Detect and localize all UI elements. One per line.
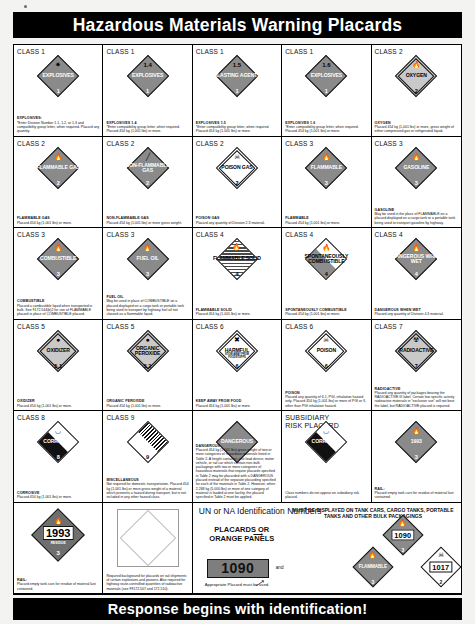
placard-name: FLAMMABLE [301, 165, 351, 170]
page-title: Hazardous Materials Warning Placards [13, 12, 462, 38]
placard-class-number: 3 [305, 180, 347, 186]
placard-cell-rail[interactable]: 🔥1993RESIDUE3RAIL:Placard empty tank car… [14, 503, 103, 595]
corrosion-icon: ◡ [323, 427, 329, 434]
placard-residue-text: RESIDUE [32, 541, 84, 545]
placard-note: CORROSIVEPlacard 454 kg (1,001 lbs) or m… [17, 491, 99, 500]
placard-cell[interactable]: CLASS 3🔥FLAMMABLE3FLAMMABLEPlacard 454 k… [282, 137, 371, 229]
placard-cell[interactable]: CLASS 8◡CORROSIVE8CORROSIVEPlacard 454 k… [14, 411, 103, 503]
placard-cell[interactable]: CLASS 3🔥FUEL OIL3FUEL OILMay be used in … [103, 228, 192, 320]
placard-graphic-wrap: 🔥FLAMMABLE GAS2 [14, 146, 102, 190]
placard-note-text: Placard 454 kg (1,001 lbs) or more. [17, 404, 72, 408]
placard-cell[interactable]: CLASS 2🔥FLAMMABLE GAS2FLAMMABLE GASPlaca… [14, 137, 103, 229]
placard-name: POISON GAS [212, 165, 262, 170]
placard-graphic-wrap: 1.6EXPLOSIVES1 [282, 54, 370, 98]
placard-id-number: 1090 [391, 529, 414, 540]
placard-note-text: Placard 454 kg (1,001 lbs) or more. [285, 312, 340, 316]
placard-cell-blank-background[interactable]: Required background for placards on rail… [103, 503, 192, 595]
placard-class-number: 7 [395, 363, 437, 369]
placard-cell[interactable]: CLASS 2🔥OXYGEN2OXYGENPlacard 454 kg (1,0… [372, 45, 461, 137]
un-id-placard: 🔥10903 [383, 515, 423, 555]
placard-cell[interactable]: DANGEROUSDANGEROUSPlacard 454 kg (1,001 … [193, 411, 282, 503]
gas-cylinder-icon: ╱ [146, 153, 150, 160]
placard-cell[interactable]: CLASS 7☢RADIOACTIVE7RADIOACTIVEPlacard a… [372, 320, 461, 412]
placard-note: ORGANIC PEROXIDEPlacard 454 kg (1,001 lb… [106, 399, 188, 408]
placard-graphic-wrap: ☠POISON6 [282, 329, 370, 373]
placard-subtext: STOW AWAY FROM FOODSTUFFS [216, 354, 258, 360]
placard-class-number: 4 [305, 271, 347, 277]
placard-note: DANGEROUS WHEN WETPlacard any quantity o… [375, 308, 458, 317]
flame-icon: 🔥 [143, 244, 152, 251]
placard-class-number: 2 [37, 180, 79, 186]
placard-image: ●OXIDIZER5.1 [37, 330, 79, 372]
placard-cell[interactable]: CLASS 3🔥GASOLINE3GASOLINEMay be used in … [372, 137, 461, 229]
placard-graphic-wrap: 9 [103, 420, 191, 464]
placard-grid: CLASS 1✷EXPLOSIVES1EXPLOSIVES:*Enter Div… [13, 44, 462, 595]
placard-note-text: Placard 454 kg (1,001 lbs) or more. [17, 495, 72, 499]
trefoil-icon: ☢ [413, 336, 419, 343]
placard-class-number: 5.2 [127, 363, 169, 369]
placard-image: ☠POISON6 [305, 330, 347, 372]
placard-image: 🔥FUEL OIL3 [127, 238, 169, 280]
placard-cell[interactable]: CLASS 6✖HARMFULSTOW AWAY FROM FOODSTUFFS… [193, 320, 282, 412]
flame-icon: 🔥 [322, 244, 331, 251]
placard-name: 1993 [391, 439, 441, 444]
placard-cell[interactable]: CLASS 5●OXIDIZER5.1OXIDIZERPlacard 454 k… [14, 320, 103, 412]
placard-name: FLAMMABLE GAS [33, 165, 83, 170]
placard-cell[interactable]: CLASS 6☠POISON6POISONPlacard any quantit… [282, 320, 371, 412]
placard-cell[interactable]: CLASS 4🔥FLAMMABLE SOLID4FLAMMABLE SOLIDP… [193, 228, 282, 320]
placard-cell[interactable]: CLASS 11.5BLASTING AGENTS1EXPLOSIVES 1.5… [193, 45, 282, 137]
placard-cell[interactable]: CLASS 2☠POISON GAS2POISON GASPlacard any… [193, 137, 282, 229]
placard-cell[interactable]: CLASS 4🔥SPONTANEOUSLY COMBUSTIBLE4SPONTA… [282, 228, 371, 320]
placard-cell[interactable]: SUBSIDIARY RISK PLACARD◡CORROSIVEClass n… [282, 411, 371, 503]
placard-note: POISON GASPlacard any quantity of Divisi… [196, 216, 278, 225]
placard-graphic-wrap: 1.5BLASTING AGENTS1 [193, 54, 281, 98]
placard-name: ORGANIC PEROXIDE [123, 345, 173, 355]
un-na-display-note: MUST BE DISPLAYED ON TANK CARS, CARGO TA… [289, 507, 457, 520]
placard-image: 🔥DANGEROUS WHEN WET4 [395, 238, 437, 280]
crossed-bones-icon: ✖ [234, 336, 240, 343]
placard-image: 🔥FLAMMABLE GAS2 [37, 147, 79, 189]
placard-cell[interactable]: CLASS 3🔥COMBUSTIBLE3COMBUSTIBLEPlacard a… [14, 228, 103, 320]
flame-icon: 🔥 [412, 244, 421, 251]
placard-chart-page: Hazardous Materials Warning Placards CLA… [0, 0, 475, 624]
placard-cell[interactable]: CLASS 11.6EXPLOSIVES1EXPLOSIVES 1.6*Ente… [282, 45, 371, 137]
flame-icon: 🔥 [412, 61, 421, 68]
placard-cell[interactable]: CLASS 99MISCELLANEOUSNot required for do… [103, 411, 192, 503]
placard-cell[interactable]: CLASS 5●ORGANIC PEROXIDE5.2ORGANIC PEROX… [103, 320, 192, 412]
placard-graphic-wrap: ◡CORROSIVE8 [14, 420, 102, 464]
placard-cell[interactable]: CLASS 4🔥DANGEROUS WHEN WET4DANGEROUS WHE… [372, 228, 461, 320]
placard-note-text: *Enter Division Number 1.1, 1.2, or 1.3 … [17, 121, 99, 134]
flame-icon: 🔥 [232, 243, 241, 250]
placard-note: Class numbers do not appear on subsidiar… [285, 491, 367, 500]
placard-graphic-wrap [103, 509, 191, 567]
placard-class-number: 3 [383, 547, 423, 553]
placard-graphic-wrap: ☢RADIOACTIVE7 [372, 329, 461, 373]
placard-class-number: 8 [37, 454, 79, 460]
placard-cell[interactable]: CLASS 11.4EXPLOSIVES1EXPLOSIVES 1.4*Ente… [103, 45, 192, 137]
placard-note: FUEL OILMay be used in place of COMBUSTI… [106, 295, 188, 316]
placard-class-number: 2 [216, 180, 258, 186]
placard-class-number: 3 [395, 180, 437, 186]
placard-graphic-wrap: 🔥GASOLINE3 [372, 146, 461, 190]
placard-graphic-wrap: ☠POISON GAS2 [193, 146, 281, 190]
placard-id-number: 1017 [429, 561, 452, 572]
placard-note: OXYGENPlacard 454 kg (1,001 lbs) or more… [375, 121, 458, 134]
placard-note-text: May be used in place of COMBUSTIBLE on a… [106, 299, 184, 316]
placard-graphic-wrap: 🔥19933 [372, 420, 461, 464]
placard-image: 9 [127, 421, 169, 463]
placard-name: EXPLOSIVES [33, 73, 83, 78]
placard-class-number: 1 [127, 88, 169, 94]
appropriate-placard-note: Appropriate Placard must be used. [205, 582, 279, 587]
placard-note: EXPLOSIVES 1.5*Enter compatibility group… [196, 121, 278, 134]
placard-cell[interactable]: CLASS 2╱NON-FLAMMABLE GAS2NON-FLAMMABLE … [103, 137, 192, 229]
placard-note-text: May be used in the place of FLAMMABLE on… [375, 212, 456, 225]
placard-image: ●ORGANIC PEROXIDE5.2 [127, 330, 169, 372]
placard-note: SPONTANEOUSLY COMBUSTIBLEPlacard 454 kg … [285, 308, 367, 317]
placard-cell[interactable]: CLASS 1✷EXPLOSIVES1EXPLOSIVES:*Enter Div… [14, 45, 103, 137]
placard-note: DANGEROUSPlacard 454 kg (1,001 lbs) gros… [196, 444, 278, 500]
placard-image: 1.5BLASTING AGENTS1 [216, 55, 258, 97]
placard-note: MISCELLANEOUSNot required for domestic t… [106, 478, 188, 499]
placard-image: 🔥19933 [395, 421, 437, 463]
placard-cell[interactable]: 🔥19933RAIL:Placard empty tank cars for r… [372, 411, 461, 503]
skull-crossbones-icon: ☠ [234, 153, 240, 160]
